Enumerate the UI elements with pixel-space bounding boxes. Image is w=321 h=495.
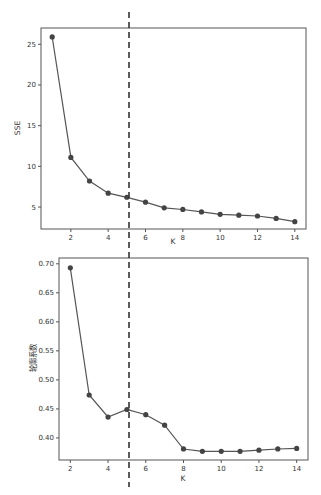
sse-axes-frame xyxy=(41,28,306,229)
sse-x-ticks: 2468101214 xyxy=(69,229,300,242)
data-point-marker xyxy=(181,446,186,451)
data-point-marker xyxy=(294,446,299,451)
sse-y-axis-label: SSE xyxy=(13,121,22,136)
y-tick-label: 15 xyxy=(27,122,36,130)
data-point-marker xyxy=(180,207,185,212)
silhouette-chart: 2468101214 0.400.450.500.550.600.650.70 … xyxy=(28,258,308,483)
x-tick-label: 10 xyxy=(217,465,226,473)
data-point-marker xyxy=(162,423,167,428)
sse-markers xyxy=(50,34,298,224)
data-point-marker xyxy=(199,209,204,214)
data-point-marker xyxy=(143,412,148,417)
silhouette-axes-frame xyxy=(59,258,308,460)
data-point-marker xyxy=(256,448,261,453)
data-point-marker xyxy=(105,414,110,419)
x-tick-label: 2 xyxy=(69,234,73,242)
y-tick-label: 0.65 xyxy=(38,289,54,297)
data-point-marker xyxy=(200,449,205,454)
x-tick-label: 12 xyxy=(254,465,263,473)
x-tick-label: 6 xyxy=(143,234,148,242)
y-tick-label: 0.55 xyxy=(38,347,54,355)
y-tick-label: 5 xyxy=(32,204,36,212)
data-point-marker xyxy=(68,155,73,160)
sse-chart: 2468101214 510152025 K SSE xyxy=(13,28,306,246)
x-tick-label: 6 xyxy=(144,465,149,473)
data-point-marker xyxy=(106,191,111,196)
x-tick-label: 2 xyxy=(68,465,72,473)
chart-canvas: 2468101214 510152025 K SSE 2468101214 0.… xyxy=(0,0,321,495)
data-point-marker xyxy=(219,449,224,454)
y-tick-label: 10 xyxy=(27,163,36,171)
y-tick-label: 0.50 xyxy=(38,376,54,384)
x-tick-label: 8 xyxy=(181,465,185,473)
x-tick-label: 10 xyxy=(216,234,225,242)
x-tick-label: 14 xyxy=(290,234,299,242)
data-point-marker xyxy=(143,200,148,205)
y-tick-label: 0.40 xyxy=(38,434,54,442)
sse-line xyxy=(52,37,295,222)
silhouette-y-axis-label: 轮廓系数 xyxy=(28,343,38,372)
x-tick-label: 12 xyxy=(253,234,262,242)
silhouette-y-ticks: 0.400.450.500.550.600.650.70 xyxy=(38,260,59,442)
sse-y-ticks: 510152025 xyxy=(27,41,41,212)
silhouette-x-axis-label: K xyxy=(181,474,187,483)
data-point-marker xyxy=(237,449,242,454)
data-point-marker xyxy=(87,178,92,183)
data-point-marker xyxy=(218,212,223,217)
data-point-marker xyxy=(292,219,297,224)
y-tick-label: 0.70 xyxy=(38,260,54,268)
x-tick-label: 8 xyxy=(181,234,185,242)
y-tick-label: 20 xyxy=(27,81,36,89)
x-tick-label: 4 xyxy=(106,234,111,242)
silhouette-line xyxy=(70,268,296,451)
y-tick-label: 25 xyxy=(27,41,36,49)
data-point-marker xyxy=(236,213,241,218)
data-point-marker xyxy=(50,34,55,39)
data-point-marker xyxy=(274,216,279,221)
silhouette-markers xyxy=(68,265,300,454)
data-point-marker xyxy=(68,265,73,270)
silhouette-x-ticks: 2468101214 xyxy=(68,460,302,473)
data-point-marker xyxy=(162,205,167,210)
y-tick-label: 0.60 xyxy=(38,318,54,326)
x-tick-label: 14 xyxy=(292,465,301,473)
sse-x-axis-label: K xyxy=(171,237,177,246)
data-point-marker xyxy=(255,213,260,218)
data-point-marker xyxy=(275,446,280,451)
data-point-marker xyxy=(87,392,92,397)
y-tick-label: 0.45 xyxy=(38,405,54,413)
x-tick-label: 4 xyxy=(106,465,111,473)
